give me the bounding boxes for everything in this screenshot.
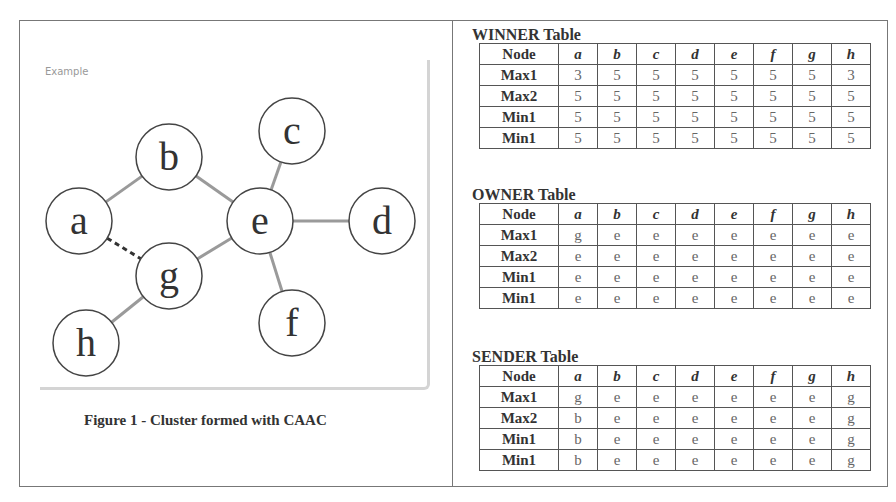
node-label: h bbox=[76, 320, 96, 365]
table-cell: 3 bbox=[559, 65, 598, 86]
row-header: Min1 bbox=[480, 267, 559, 288]
table-cell: e bbox=[598, 246, 637, 267]
column-header: g bbox=[793, 44, 832, 65]
table-cell: 5 bbox=[676, 86, 715, 107]
table-cell: e bbox=[793, 450, 832, 471]
table-header-row: Nodeabcdefgh bbox=[480, 204, 871, 225]
column-header: e bbox=[715, 204, 754, 225]
table-cell: g bbox=[559, 387, 598, 408]
table-cell: e bbox=[832, 225, 871, 246]
table-cell: e bbox=[559, 288, 598, 309]
node-f: f bbox=[259, 290, 325, 356]
edge-g-e bbox=[197, 238, 232, 259]
table-cell: e bbox=[676, 450, 715, 471]
column-header: f bbox=[754, 204, 793, 225]
table-cell: e bbox=[793, 387, 832, 408]
figure-caption: Figure 1 - Cluster formed with CAAC bbox=[84, 412, 327, 429]
node-label: g bbox=[159, 253, 179, 298]
table-cell: e bbox=[715, 387, 754, 408]
table-cell: e bbox=[637, 225, 676, 246]
column-header: g bbox=[793, 366, 832, 387]
column-header: c bbox=[637, 44, 676, 65]
table-cell: e bbox=[793, 408, 832, 429]
node-label: a bbox=[70, 198, 88, 243]
node-h: h bbox=[53, 310, 119, 376]
table-cell: e bbox=[715, 288, 754, 309]
row-header: Max2 bbox=[480, 408, 559, 429]
table-cell: 5 bbox=[559, 86, 598, 107]
table-cell: 5 bbox=[676, 65, 715, 86]
table-cell: e bbox=[676, 408, 715, 429]
table-cell: 5 bbox=[754, 107, 793, 128]
edge-g-h bbox=[112, 297, 144, 323]
table-cell: 5 bbox=[715, 65, 754, 86]
table-cell: e bbox=[754, 408, 793, 429]
table-cell: e bbox=[793, 429, 832, 450]
node-label: f bbox=[285, 300, 299, 345]
table-cell: e bbox=[715, 246, 754, 267]
row-header: Max1 bbox=[480, 387, 559, 408]
column-header: b bbox=[598, 204, 637, 225]
table-cell: 5 bbox=[598, 128, 637, 149]
table-cell: e bbox=[598, 267, 637, 288]
table-cell: e bbox=[637, 450, 676, 471]
column-header: d bbox=[676, 44, 715, 65]
node-c: c bbox=[259, 98, 325, 164]
column-header: Node bbox=[480, 366, 559, 387]
winner-table-title: WINNER Table bbox=[472, 26, 871, 43]
table-cell: e bbox=[676, 246, 715, 267]
table-cell: e bbox=[637, 288, 676, 309]
table-row: Max135555553 bbox=[480, 65, 871, 86]
column-header: c bbox=[637, 366, 676, 387]
table-row: Min1beeeeeeg bbox=[480, 429, 871, 450]
table-cell: e bbox=[754, 387, 793, 408]
node-label: e bbox=[251, 198, 269, 243]
owner-table: NodeabcdefghMax1geeeeeeeMax2eeeeeeeeMin1… bbox=[479, 203, 871, 309]
column-header: g bbox=[793, 204, 832, 225]
edge-a-g bbox=[107, 238, 141, 259]
sender-table-title: SENDER Table bbox=[472, 348, 871, 365]
column-header: d bbox=[676, 204, 715, 225]
table-cell: b bbox=[559, 450, 598, 471]
table-cell: e bbox=[637, 267, 676, 288]
table-cell: e bbox=[637, 408, 676, 429]
row-header: Min1 bbox=[480, 288, 559, 309]
table-cell: 5 bbox=[832, 128, 871, 149]
table-cell: 5 bbox=[793, 128, 832, 149]
column-header: Node bbox=[480, 44, 559, 65]
table-cell: 5 bbox=[715, 86, 754, 107]
table-cell: e bbox=[754, 267, 793, 288]
sender-table-block: SENDER Table NodeabcdefghMax1geeeeeegMax… bbox=[472, 348, 871, 471]
table-row: Min155555555 bbox=[480, 128, 871, 149]
table-cell: e bbox=[598, 225, 637, 246]
table-cell: g bbox=[832, 387, 871, 408]
winner-table: NodeabcdefghMax135555553Max255555555Min1… bbox=[479, 43, 871, 149]
table-cell: e bbox=[598, 288, 637, 309]
node-g: g bbox=[136, 243, 202, 309]
row-header: Min1 bbox=[480, 107, 559, 128]
edge-a-b bbox=[106, 176, 142, 202]
table-cell: e bbox=[559, 246, 598, 267]
table-row: Min1beeeeeeg bbox=[480, 450, 871, 471]
edge-c-e bbox=[271, 162, 281, 190]
row-header: Max1 bbox=[480, 65, 559, 86]
table-cell: e bbox=[793, 246, 832, 267]
table-cell: 5 bbox=[637, 65, 676, 86]
table-cell: 5 bbox=[598, 86, 637, 107]
table-cell: e bbox=[715, 408, 754, 429]
table-cell: 5 bbox=[676, 128, 715, 149]
sender-table: NodeabcdefghMax1geeeeeegMax2beeeeeegMin1… bbox=[479, 365, 871, 471]
table-cell: 5 bbox=[559, 107, 598, 128]
table-cell: e bbox=[715, 429, 754, 450]
table-cell: e bbox=[637, 387, 676, 408]
table-cell: e bbox=[637, 246, 676, 267]
table-cell: 5 bbox=[793, 86, 832, 107]
table-header-row: Nodeabcdefgh bbox=[480, 44, 871, 65]
table-row: Min155555555 bbox=[480, 107, 871, 128]
node-e: e bbox=[227, 188, 293, 254]
table-cell: g bbox=[559, 225, 598, 246]
column-header: a bbox=[559, 44, 598, 65]
node-b: b bbox=[136, 124, 202, 190]
table-row: Max255555555 bbox=[480, 86, 871, 107]
table-cell: e bbox=[832, 246, 871, 267]
